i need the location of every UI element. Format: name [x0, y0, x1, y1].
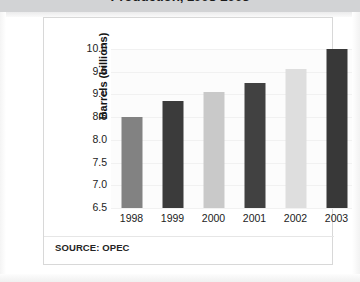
- page-edge-left: [0, 12, 6, 282]
- y-tick-label: 8.5: [73, 110, 107, 122]
- y-tick-label: 9.0: [73, 87, 107, 99]
- bar-slot: [234, 49, 275, 208]
- footer-divider: [44, 236, 334, 237]
- y-tick-label: 8.0: [73, 133, 107, 145]
- y-tick-label: 10.0: [73, 42, 107, 54]
- y-tick-label: 6.5: [73, 201, 107, 213]
- y-tick-label: 7.0: [73, 178, 107, 190]
- bar-slot: [275, 49, 316, 208]
- y-tick-label: 7.5: [73, 156, 107, 168]
- x-tick-label: 1999: [152, 212, 193, 224]
- bar-1999: [162, 101, 183, 208]
- x-axis-tick-labels: 199819992000200120022003: [111, 212, 357, 228]
- chart-title: Production, 1998-2003: [0, 0, 360, 4]
- x-tick-label: 2003: [316, 212, 357, 224]
- bar-series: [111, 49, 357, 208]
- source-note: SOURCE: OPEC: [55, 242, 130, 253]
- title-band: Production, 1998-2003: [0, 0, 360, 12]
- bar-slot: [111, 49, 152, 208]
- bar-2003: [326, 49, 347, 208]
- chart-figure: Production, 1998-2003 Barrels (billions)…: [0, 0, 360, 282]
- x-tick-label: 2001: [234, 212, 275, 224]
- page-edge-right: [352, 12, 360, 282]
- x-tick-label: 1998: [111, 212, 152, 224]
- bar-2001: [244, 83, 265, 208]
- x-tick-label: 2000: [193, 212, 234, 224]
- x-tick-label: 2002: [275, 212, 316, 224]
- y-tick-label: 9.5: [73, 65, 107, 77]
- y-axis-tick-labels: 10.09.59.08.58.07.57.06.5: [71, 49, 107, 208]
- bar-slot: [193, 49, 234, 208]
- bar-2002: [285, 69, 306, 208]
- bar-2000: [203, 92, 224, 208]
- bar-slot: [152, 49, 193, 208]
- gridline: [111, 208, 357, 209]
- bar-slot: [316, 49, 357, 208]
- chart-panel: Barrels (billions) 10.09.59.08.58.07.57.…: [43, 17, 333, 265]
- page-edge-bottom: [0, 274, 360, 282]
- bar-1998: [121, 117, 142, 208]
